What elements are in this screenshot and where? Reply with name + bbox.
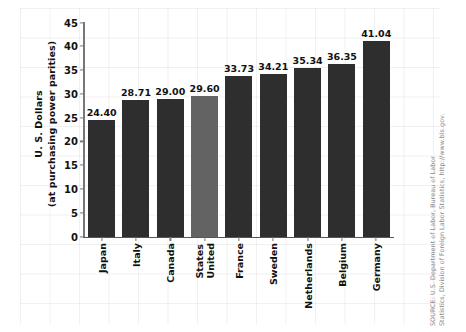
- bar-value-label: 33.73: [224, 63, 254, 74]
- x-axis-tick-mark: [273, 237, 274, 241]
- x-axis-category-label: Japan: [96, 243, 107, 273]
- y-axis-tick-mark: [80, 69, 84, 70]
- x-axis-category-label-line: Germany: [371, 243, 382, 291]
- x-axis-category-label-line: Italy: [130, 243, 141, 267]
- bar-rect[interactable]: [260, 74, 287, 237]
- bar-rect[interactable]: [225, 76, 252, 236]
- y-axis-tick-mark: [80, 212, 84, 213]
- y-axis-title-line-2: (at purchasing power parities): [45, 41, 58, 207]
- x-axis-category-label: Netherlands: [302, 243, 313, 309]
- x-axis-tick-mark: [170, 237, 171, 241]
- x-axis-tick-mark: [238, 237, 239, 241]
- y-axis-tick-mark: [80, 117, 84, 118]
- x-axis-category-label-line: France: [233, 243, 244, 279]
- bar-slot[interactable]: 36.35: [325, 23, 359, 237]
- y-axis-tick-mark: [80, 236, 84, 237]
- bar-slot[interactable]: 41.04: [359, 23, 393, 237]
- bar-value-label: 28.71: [121, 87, 151, 98]
- x-axis-tick-mark: [376, 237, 377, 241]
- bar-rect[interactable]: [294, 68, 321, 236]
- bar-slot[interactable]: 33.73: [222, 23, 256, 237]
- x-axis-category-label: UnitedStates: [194, 243, 216, 279]
- x-label-slot: Sweden: [256, 241, 290, 313]
- y-axis-tick-label: 40: [64, 41, 78, 52]
- bar-chart: U. S. Dollars (at purchasing power parit…: [0, 0, 466, 332]
- bar-slot[interactable]: 29.00: [153, 23, 187, 237]
- x-axis-tick-mark: [204, 237, 205, 241]
- bar-value-label: 29.60: [190, 83, 220, 94]
- x-axis-category-label-line: Canada: [165, 243, 176, 283]
- x-axis-category-label-line: Belgium: [336, 243, 347, 287]
- bar-slot[interactable]: 24.40: [85, 23, 119, 237]
- x-label-slot: Canada: [153, 241, 187, 313]
- bar-rect[interactable]: [363, 41, 390, 236]
- x-axis-category-label: Canada: [165, 243, 176, 283]
- bar-rect[interactable]: [191, 96, 218, 237]
- x-label-slot: Italy: [119, 241, 153, 313]
- x-axis-tick-mark: [307, 237, 308, 241]
- bar-slot[interactable]: 29.60: [188, 23, 222, 237]
- y-axis-tick-mark: [80, 141, 84, 142]
- y-axis-tick-mark: [80, 165, 84, 166]
- x-label-slot: Germany: [359, 241, 393, 313]
- x-axis-tick-mark: [341, 237, 342, 241]
- y-axis-tick-mark: [80, 188, 84, 189]
- bar-value-label: 34.21: [258, 61, 288, 72]
- x-axis-tick-mark: [135, 237, 136, 241]
- bar-slot[interactable]: 28.71: [119, 23, 153, 237]
- bar-slot[interactable]: 35.34: [291, 23, 325, 237]
- x-axis-category-label-line: States: [194, 243, 205, 279]
- bar-rect[interactable]: [122, 100, 149, 237]
- x-axis-category-label-line: United: [205, 243, 216, 279]
- y-axis-tick-label: 25: [64, 112, 78, 123]
- bar-rect[interactable]: [157, 99, 184, 237]
- bar-rect[interactable]: [328, 64, 355, 237]
- y-axis-tick-label: 0: [71, 231, 78, 242]
- y-axis-tick-label: 5: [71, 207, 78, 218]
- x-label-slot: Belgium: [325, 241, 359, 313]
- x-label-slot: Netherlands: [291, 241, 325, 313]
- x-axis-category-label: Germany: [371, 243, 382, 291]
- y-axis-tick-label: 20: [64, 136, 78, 147]
- bar-rect[interactable]: [88, 120, 115, 236]
- x-axis-category-labels: JapanItalyCanadaUnitedStatesFranceSweden…: [85, 241, 394, 313]
- y-axis-tick-label: 10: [64, 183, 78, 194]
- source-note-line-2: Statistics, Division of Foreign Labor St…: [438, 50, 447, 326]
- x-label-slot: UnitedStates: [188, 241, 222, 313]
- y-axis-tick-label: 30: [64, 88, 78, 99]
- x-label-slot: Japan: [85, 241, 119, 313]
- y-axis-tick-mark: [80, 93, 84, 94]
- y-axis-tick-mark: [80, 22, 84, 23]
- y-axis-title: U. S. Dollars (at purchasing power parit…: [24, 8, 66, 240]
- source-note: SOURCE: U.S. Department of Labor, Bureau…: [429, 50, 447, 326]
- x-axis-category-label-line: Sweden: [268, 243, 279, 285]
- bar-slot[interactable]: 34.21: [256, 23, 290, 237]
- x-axis-category-label-line: Japan: [96, 243, 107, 273]
- bar-value-label: 29.00: [155, 86, 185, 97]
- x-label-slot: France: [222, 241, 256, 313]
- bar-series: 24.4028.7129.0029.6033.7334.2135.3436.35…: [85, 23, 394, 237]
- y-axis-tick-label: 45: [64, 17, 78, 28]
- bar-value-label: 24.40: [87, 107, 117, 118]
- x-axis-category-label: Sweden: [268, 243, 279, 285]
- x-axis-category-label-line: Netherlands: [302, 243, 313, 309]
- y-axis-title-line-1: U. S. Dollars: [32, 90, 45, 157]
- x-axis-category-label: Italy: [130, 243, 141, 267]
- y-axis-tick-label: 15: [64, 160, 78, 171]
- source-note-line-1: SOURCE: U.S. Department of Labor, Bureau…: [429, 50, 438, 326]
- bar-value-label: 41.04: [361, 28, 391, 39]
- x-axis-category-label: France: [233, 243, 244, 279]
- y-axis-tick-label: 35: [64, 65, 78, 76]
- bar-value-label: 36.35: [327, 51, 357, 62]
- y-axis-tick-mark: [80, 46, 84, 47]
- x-axis-tick-mark: [101, 237, 102, 241]
- bar-value-label: 35.34: [293, 55, 323, 66]
- plot-area: 051015202530354045 24.4028.7129.0029.603…: [83, 22, 394, 238]
- x-axis-category-label: Belgium: [336, 243, 347, 287]
